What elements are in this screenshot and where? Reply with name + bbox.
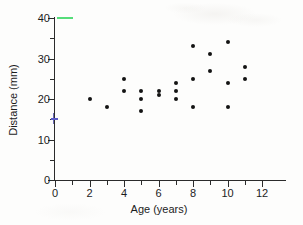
data-point	[105, 105, 109, 109]
x-tick-major	[228, 180, 229, 187]
data-point	[88, 97, 92, 101]
data-point	[174, 81, 178, 85]
data-point	[191, 44, 195, 48]
x-tick-minor	[107, 180, 108, 185]
data-point	[174, 89, 178, 93]
data-point	[122, 77, 126, 81]
x-tick-minor	[176, 180, 177, 185]
x-tick-minor	[72, 180, 73, 185]
y-tick-minor	[50, 79, 55, 80]
y-tick-minor	[50, 38, 55, 39]
x-tick-label: 12	[251, 188, 273, 199]
data-point	[157, 93, 161, 97]
green-highlighter-mark-icon	[57, 17, 73, 19]
data-point	[122, 89, 126, 93]
x-tick-major	[262, 180, 263, 187]
y-tick-label: 40	[24, 13, 50, 24]
data-point	[208, 69, 212, 73]
x-tick-label: 0	[44, 188, 66, 199]
data-point	[174, 97, 178, 101]
data-point	[191, 77, 195, 81]
x-axis-title: Age (years)	[56, 203, 262, 215]
data-point	[243, 65, 247, 69]
x-tick-label: 10	[217, 188, 239, 199]
x-tick-label: 4	[113, 188, 135, 199]
x-tick-label: 6	[148, 188, 170, 199]
x-tick-major	[159, 180, 160, 187]
data-point	[226, 81, 230, 85]
data-point	[243, 77, 247, 81]
x-tick-label: 8	[182, 188, 204, 199]
x-tick-minor	[210, 180, 211, 185]
data-point	[226, 40, 230, 44]
data-point	[208, 52, 212, 56]
y-tick-label: 30	[24, 54, 50, 65]
data-point	[139, 109, 143, 113]
x-tick-major	[124, 180, 125, 187]
data-point	[191, 105, 195, 109]
x-tick-minor	[141, 180, 142, 185]
y-axis-title: Distance (mm)	[7, 40, 19, 160]
y-tick-minor	[50, 160, 55, 161]
y-tick-label: 20	[24, 94, 50, 105]
x-tick-major	[55, 180, 56, 187]
x-tick-major	[193, 180, 194, 187]
y-tick-label: 0	[24, 175, 50, 186]
x-tick-major	[90, 180, 91, 187]
data-point	[139, 89, 143, 93]
blue-pen-mark-icon	[51, 118, 58, 120]
x-tick-minor	[245, 180, 246, 185]
scatter-plot-figure: 010203040 024681012 Age (years) Distance…	[0, 0, 303, 225]
x-tick-label: 2	[79, 188, 101, 199]
data-point	[226, 105, 230, 109]
y-tick-label: 10	[24, 135, 50, 146]
data-point	[139, 97, 143, 101]
